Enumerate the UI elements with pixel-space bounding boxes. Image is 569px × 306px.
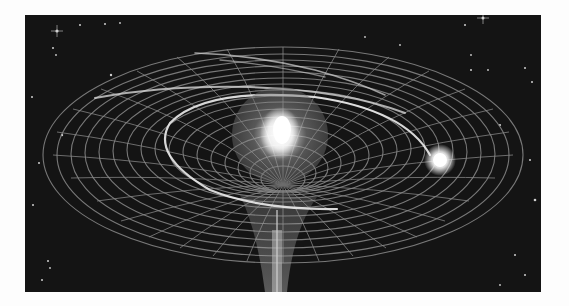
gravity-well-graphic [25,15,541,292]
spacetime-illustration [25,15,541,292]
star-flares [51,15,489,37]
page-canvas [0,0,569,306]
